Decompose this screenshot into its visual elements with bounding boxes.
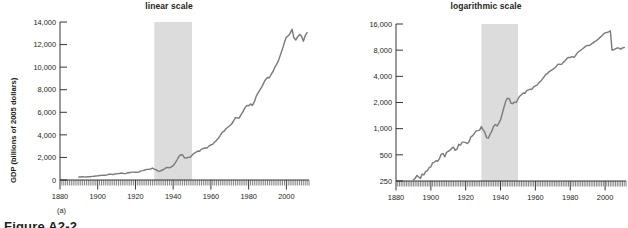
y-tick-label: 6,000 [38,108,57,117]
x-tick-label: 1900 [90,192,106,201]
data-series-gdp [79,29,307,177]
y-tick-label: 250 [380,177,392,186]
x-tick-label: 1960 [527,193,543,202]
y-tick-label: 8,000 [374,46,393,55]
y-tick-label: 10,000 [33,63,56,72]
y-tick-label: 2,000 [38,153,57,162]
y-tick-label: 8,000 [38,85,57,94]
x-tick-label: 2000 [278,192,294,201]
x-tick-label: 1940 [492,193,508,202]
shaded-band [481,24,518,181]
y-tick-label: 1,000 [374,124,393,133]
chart-panel-log: logarithmic scale GDP (billions of 2005 … [314,0,628,228]
y-tick-label: 2,000 [374,98,393,107]
x-tick-label: 1940 [165,192,181,201]
figure-root: linear scale GDP (billions of 2005 dolla… [0,0,628,228]
data-series-gdp [413,31,624,180]
x-tick-label: 1980 [562,193,578,202]
y-tick-label: 12,000 [33,40,56,49]
x-tick-label: 1900 [423,193,439,202]
y-tick-label: 16,000 [369,20,392,29]
x-tick-label: 1880 [52,192,68,201]
x-tick-label: 1920 [457,193,473,202]
x-tick-label: 2000 [597,193,613,202]
x-tick-label: 1960 [203,192,219,201]
x-tick-label: 1920 [127,192,143,201]
y-tick-label: 14,000 [33,18,56,27]
chart-svg-log: 2505001,0002,0004,0008,00016,00018801900… [314,0,628,228]
chart-panel-linear: linear scale GDP (billions of 2005 dolla… [0,0,314,228]
y-tick-label: 0 [52,176,56,185]
x-tick-label: 1880 [388,193,404,202]
y-tick-label: 4,000 [38,131,57,140]
y-tick-label: 4,000 [374,72,393,81]
x-tick-label: 1980 [240,192,256,201]
chart-svg-linear: 02,0004,0006,0008,00010,00012,00014,0001… [0,0,314,228]
shaded-band [154,22,192,180]
panel-letter-a: (a) [57,206,66,215]
figure-caption: Figure A2-2 [4,219,77,228]
y-tick-label: 500 [380,151,392,160]
